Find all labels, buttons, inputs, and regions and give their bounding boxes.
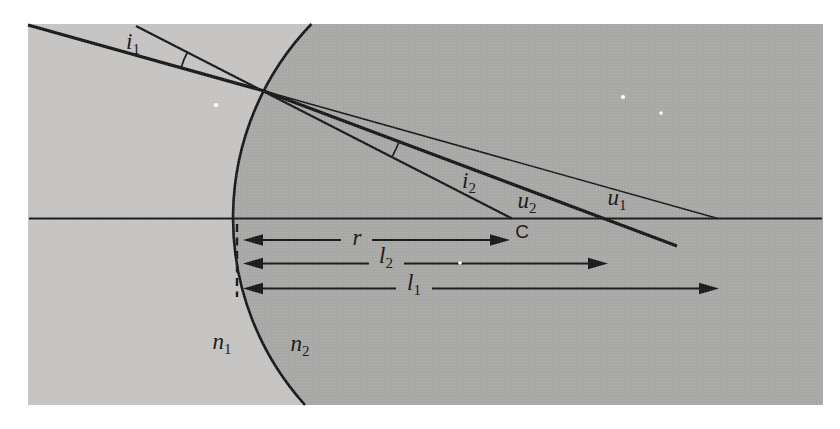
label-distance-l2: l2 <box>379 244 393 267</box>
label-l1-sub: 1 <box>413 282 421 298</box>
label-n2-base: n <box>291 331 303 356</box>
speckle-dot <box>214 103 218 107</box>
figure-canvas: i1 i2 u2 u1 C r l2 l1 n1 n2 <box>0 0 840 429</box>
label-angle-i2: i2 <box>462 169 476 192</box>
label-C-base: C <box>515 221 529 242</box>
label-angle-u2: u2 <box>518 189 537 212</box>
label-index-n2: n2 <box>291 332 310 355</box>
speckle-dot <box>458 261 462 265</box>
label-distance-l1: l1 <box>407 271 421 294</box>
label-u2-base: u <box>518 188 530 213</box>
label-n2-sub: 2 <box>302 343 310 359</box>
speckle-dot <box>659 111 663 115</box>
label-i2-sub: 2 <box>468 180 476 196</box>
label-angle-i1: i1 <box>126 30 140 53</box>
label-radius-r: r <box>353 226 362 249</box>
label-u2-sub: 2 <box>529 200 537 216</box>
speckle-dot <box>621 95 625 99</box>
label-l2-sub: 2 <box>385 255 393 271</box>
label-i1-sub: 1 <box>132 41 140 57</box>
label-n1-sub: 1 <box>224 341 232 357</box>
label-u1-base: u <box>608 185 620 210</box>
label-center-of-curvature-C: C <box>515 222 529 241</box>
label-r-base: r <box>353 225 362 250</box>
label-index-n1: n1 <box>213 330 232 353</box>
label-u1-sub: 1 <box>619 197 627 213</box>
optical-diagram <box>0 0 840 429</box>
label-angle-u1: u1 <box>608 186 627 209</box>
label-n1-base: n <box>213 329 225 354</box>
